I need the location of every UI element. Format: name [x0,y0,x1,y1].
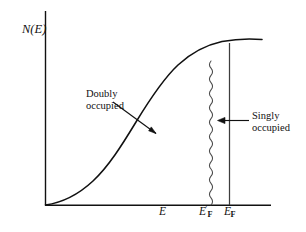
x-tick-label-E-F: EF [224,204,236,219]
x-tick-label-E-prime-F: E′F [199,204,213,219]
y-axis-label: N(E) [22,22,46,36]
e-prime-f-squiggly-line [209,61,212,205]
density-of-states-figure: N(E) Doubly occupied Singly occupied E E… [0,0,306,232]
x-tick-EF-subscript: F [231,210,236,219]
singly-occupied-line-2: occupied [252,122,290,134]
singly-occupied-line-1: Singly [252,110,290,122]
singly-occupied-label: Singly occupied [252,110,290,134]
x-tick-EFp-subscript: F [208,210,213,219]
x-tick-EFp-base: E [199,205,206,217]
doubly-occupied-label: Doubly occupied [86,88,124,112]
x-tick-E-base: E [159,205,166,217]
x-tick-label-E: E [159,204,166,219]
doubly-occupied-line-2: occupied [86,100,124,112]
singly-occupied-arrow [218,117,250,123]
doubly-occupied-line-1: Doubly [86,88,124,100]
